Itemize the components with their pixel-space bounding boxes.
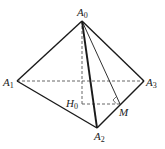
- edge-A2-A3: [97, 81, 144, 128]
- edge-A0-A3: [82, 21, 144, 81]
- label-A1: A1: [2, 76, 14, 90]
- right-angle-mark-M: [113, 97, 117, 104]
- tetrahedron-diagram: A0 A1 A3 A2 H0 M: [0, 0, 165, 149]
- label-A2: A2: [93, 130, 105, 144]
- edge-A1-A2: [17, 81, 97, 128]
- label-A3: A3: [145, 76, 157, 90]
- diagram-svg: A0 A1 A3 A2 H0 M: [0, 0, 165, 149]
- edge-A0-A1: [17, 21, 82, 81]
- label-M: M: [118, 106, 129, 118]
- label-A0: A0: [76, 6, 88, 20]
- label-H0: H0: [65, 97, 78, 111]
